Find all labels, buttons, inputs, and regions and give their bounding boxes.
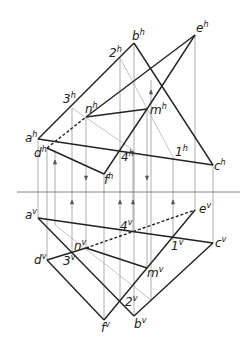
point-label-f-h: fh xyxy=(104,172,113,187)
point-label-b-v: bv xyxy=(134,316,147,331)
point-label-d-v: dv xyxy=(34,252,47,267)
point-label-d-h: dh xyxy=(34,145,47,160)
point-label-b-h: bh xyxy=(132,28,145,43)
point-label-4-h: 4h xyxy=(121,149,134,164)
point-label-1-v: 1v xyxy=(171,238,184,253)
point-label-e-v: ev xyxy=(199,201,211,216)
point-label-m-h: mh xyxy=(150,102,167,117)
point-label-f-v: fv xyxy=(101,320,110,335)
projection-diagram: ahdhbhehchfhnhmh2h3h4h1h avdvevcvfvbvnvm… xyxy=(0,0,252,355)
point-label-e-h: eh xyxy=(196,20,208,35)
point-label-m-v: mv xyxy=(147,265,164,280)
point-label-n-h: nh xyxy=(85,101,98,116)
point-label-c-h: ch xyxy=(214,158,226,173)
point-label-2-v: 2v xyxy=(125,294,138,309)
point-label-a-h: ah xyxy=(25,130,37,145)
point-label-n-v: nv xyxy=(74,238,87,253)
point-label-a-v: av xyxy=(25,207,37,222)
point-label-1-h: 1h xyxy=(175,144,188,159)
point-label-c-v: cv xyxy=(215,235,227,250)
point-label-3-v: 3v xyxy=(63,253,76,268)
